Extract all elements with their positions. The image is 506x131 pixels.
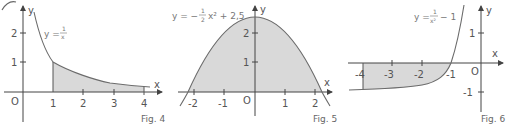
shaded-area [363,63,451,90]
x-tick-label: -2 [188,98,198,109]
x-axis-label: x [154,79,160,90]
x-tick-label: -1 [446,69,456,80]
figure-caption: Fig. 6 [481,114,505,124]
y-tick-label: 1 [469,28,475,39]
figure-5: -2 -1 1 2 1 2 O x y y = − 1 2 x² + 2,5 F… [172,4,337,124]
origin-label: O [471,66,479,77]
y-tick-label: 1 [243,57,249,68]
y-axis-label: y [260,4,266,15]
x-tick-label: 2 [312,98,318,109]
svg-text:− 1: − 1 [440,12,456,22]
svg-text:2: 2 [201,16,205,23]
x-tick-label: -2 [414,69,424,80]
svg-text:x²: x² [430,17,437,24]
y-tick-label: 2 [243,28,249,39]
x-tick-label: 1 [50,98,56,109]
x-tick-label: -3 [384,69,394,80]
curve [34,12,150,87]
svg-text:1: 1 [433,8,437,15]
x-tick-label: 4 [141,98,147,109]
y-tick-label: -1 [463,87,473,98]
svg-text:x² + 2,5: x² + 2,5 [208,11,245,21]
svg-text:1: 1 [201,7,205,14]
decorative-arc [2,2,16,10]
figure-caption: Fig. 4 [141,114,165,124]
figure-4: 1 2 3 4 1 2 O x y y = 1 x Fig. 4 [4,5,165,124]
y-axis-label: y [28,5,34,16]
svg-text:y =: y = [414,12,430,22]
equation-label: y = 1 x² − 1 [414,8,456,24]
x-tick-label: -1 [218,98,228,109]
svg-text:x: x [61,33,65,40]
origin-label: O [11,96,19,107]
x-tick-label: -4 [355,69,365,80]
y-axis-label: y [486,5,492,16]
x-tick-label: 2 [80,98,86,109]
figures-canvas: 1 2 3 4 1 2 O x y y = 1 x Fig. 4 -2 -1 1… [0,0,506,131]
figure-6: -4 -3 -2 -1 1 -1 O x y y = 1 x² − 1 Fig.… [348,5,505,124]
equation-label: y = 1 x [44,25,67,40]
x-axis-label: x [492,48,498,59]
x-tick-label: 3 [111,98,117,109]
svg-text:y = −: y = − [172,11,198,21]
origin-label: O [243,95,251,106]
figure-caption: Fig. 5 [313,114,337,124]
x-tick-label: 1 [282,98,288,109]
shaded-area [53,62,144,92]
y-tick-label: 2 [11,28,17,39]
equation-label: y = − 1 2 x² + 2,5 [172,7,245,23]
y-tick-label: 1 [11,57,17,68]
svg-text:y =: y = [44,29,60,39]
x-axis-label: x [324,77,330,88]
svg-text:1: 1 [62,25,66,32]
